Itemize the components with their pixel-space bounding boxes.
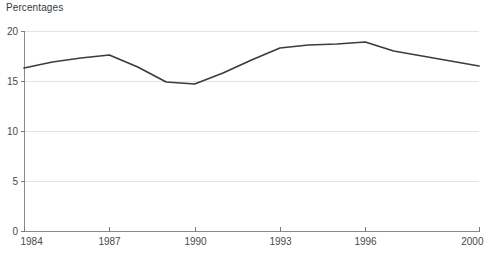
y-tick-label-10: 10 [7,126,19,137]
x-tick-label-1990: 1990 [184,236,207,247]
line-chart: Percentages 05101520 1984198719901993199… [0,0,487,259]
y-tick-label-15: 15 [7,76,19,87]
x-tick-label-1984: 1984 [21,236,44,247]
y-tick-label-20: 20 [7,26,19,37]
x-tick-label-1996: 1996 [354,236,377,247]
y-tick-label-5: 5 [12,176,18,187]
data-series [24,42,479,84]
data-line-percentages [24,42,479,84]
y-axis: 05101520 [7,26,25,237]
x-tick-label-1987: 1987 [98,236,121,247]
x-axis: 198419871990199319962000 [21,227,484,247]
y-tick-label-0: 0 [12,226,18,237]
x-tick-label-1993: 1993 [269,236,292,247]
gridlines [24,32,479,232]
chart-plot-area: 05101520 198419871990199319962000 [0,0,487,259]
x-tick-label-2000: 2000 [461,236,484,247]
